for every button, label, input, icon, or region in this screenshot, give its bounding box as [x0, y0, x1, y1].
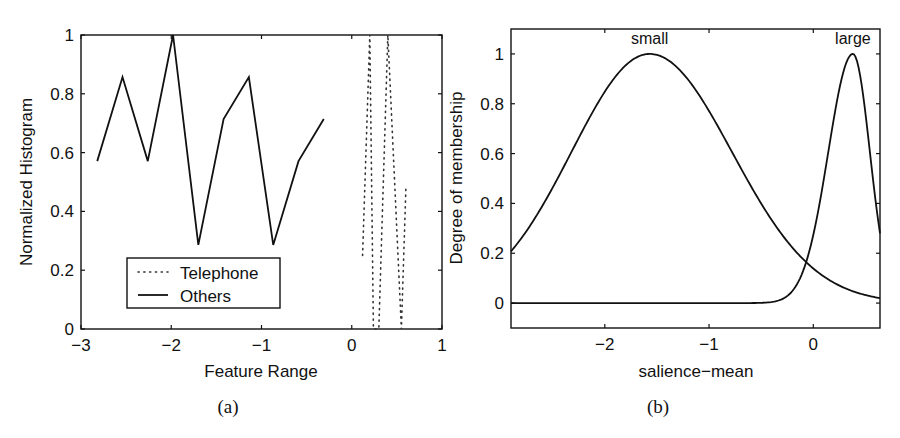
- y-tick-label: 0.8: [480, 95, 504, 114]
- chart-b-annotation-small: small: [631, 30, 668, 47]
- x-tick-label: 0: [347, 336, 356, 355]
- x-tick-label: 1: [437, 336, 446, 355]
- chart-a-caption: (a): [217, 396, 238, 418]
- y-tick-label: 0: [495, 294, 504, 313]
- x-tick-label: −2: [595, 335, 614, 354]
- y-tick-label: 0.4: [50, 202, 74, 221]
- chart-a-series-telephone: [363, 35, 406, 329]
- y-tick-label: 0.6: [480, 145, 504, 164]
- y-tick-label: 0.8: [50, 85, 74, 104]
- chart-b-x-axis-label: salience−mean: [639, 362, 754, 381]
- chart-b-series-large: [511, 54, 880, 303]
- y-tick-label: 0.6: [50, 144, 74, 163]
- chart-b-caption: (b): [647, 396, 669, 418]
- figure: 00.20.40.60.81 −3−2−101 Feature Range No…: [0, 0, 900, 438]
- x-tick-label: −3: [71, 336, 90, 355]
- chart-a-x-axis-label: Feature Range: [204, 362, 317, 381]
- y-tick-label: 0.2: [50, 261, 74, 280]
- y-tick-label: 1: [65, 26, 74, 45]
- chart-b-annotation-large: large: [835, 30, 871, 47]
- chart-a-histogram: 00.20.40.60.81 −3−2−101 Feature Range No…: [17, 26, 447, 418]
- x-tick-label: −2: [162, 336, 181, 355]
- y-tick-label: 0.4: [480, 194, 504, 213]
- chart-a-y-axis-label: Normalized Histogram: [17, 98, 36, 266]
- chart-a-legend: Telephone Others: [127, 258, 280, 308]
- chart-b-y-axis-label: Degree of membership: [447, 92, 466, 265]
- chart-b-membership: 00.20.40.60.81 −2−10 small large salienc…: [447, 29, 880, 418]
- x-tick-label: 0: [809, 335, 818, 354]
- x-tick-label: −1: [699, 335, 718, 354]
- y-tick-label: 1: [495, 45, 504, 64]
- x-tick-label: −1: [252, 336, 271, 355]
- chart-b-x-ticks: −2−10: [595, 29, 818, 354]
- chart-a-series-others: [97, 35, 324, 245]
- legend-others-label: Others: [180, 287, 231, 306]
- y-tick-label: 0.2: [480, 244, 504, 263]
- legend-telephone-label: Telephone: [180, 264, 258, 283]
